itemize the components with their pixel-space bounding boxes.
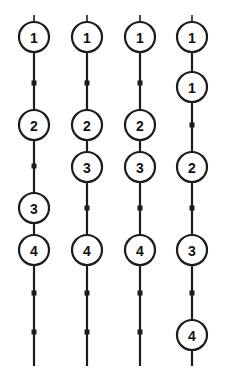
node-label: 3 bbox=[30, 201, 38, 217]
node-label: 1 bbox=[188, 30, 196, 46]
chain-marker-square bbox=[85, 206, 90, 211]
node-label: 3 bbox=[83, 160, 91, 176]
chain-marker-square bbox=[190, 291, 195, 296]
chain-column: 1234 bbox=[125, 15, 155, 366]
chain-column: 1234 bbox=[19, 15, 49, 366]
node-label: 1 bbox=[188, 80, 196, 96]
chain-marker-square bbox=[190, 123, 195, 128]
node-label: 2 bbox=[188, 160, 196, 176]
chain-marker-square bbox=[138, 206, 143, 211]
chain-node[interactable]: 3 bbox=[177, 235, 207, 265]
chain-node[interactable]: 1 bbox=[177, 72, 207, 102]
chain-node[interactable]: 1 bbox=[177, 22, 207, 52]
node-label: 2 bbox=[136, 118, 144, 134]
node-label: 1 bbox=[136, 30, 144, 46]
node-label: 1 bbox=[30, 30, 38, 46]
chain-marker-square bbox=[32, 81, 37, 86]
chain-node[interactable]: 1 bbox=[19, 22, 49, 52]
chain-node[interactable]: 2 bbox=[19, 110, 49, 140]
node-label: 4 bbox=[188, 328, 196, 344]
chain-node[interactable]: 2 bbox=[125, 110, 155, 140]
chain-node[interactable]: 3 bbox=[19, 193, 49, 223]
chain-node[interactable]: 4 bbox=[177, 320, 207, 350]
chain-node[interactable]: 4 bbox=[19, 235, 49, 265]
chain-node[interactable]: 4 bbox=[125, 235, 155, 265]
node-label: 3 bbox=[136, 160, 144, 176]
node-label: 4 bbox=[30, 243, 38, 259]
chain-column: 11234 bbox=[177, 15, 207, 366]
chain-marker-square bbox=[85, 291, 90, 296]
node-label: 2 bbox=[83, 118, 91, 134]
chain-marker-square bbox=[85, 81, 90, 86]
chain-column: 1234 bbox=[72, 15, 102, 366]
chain-node[interactable]: 2 bbox=[177, 152, 207, 182]
chain-node[interactable]: 3 bbox=[72, 152, 102, 182]
chain-marker-square bbox=[190, 206, 195, 211]
chain-marker-square bbox=[32, 330, 37, 335]
node-label: 4 bbox=[136, 243, 144, 259]
chain-marker-square bbox=[32, 164, 37, 169]
chain-node[interactable]: 4 bbox=[72, 235, 102, 265]
node-label: 3 bbox=[188, 243, 196, 259]
chain-diagram: 12341234123411234 bbox=[0, 0, 229, 374]
chain-marker-square bbox=[138, 330, 143, 335]
chain-marker-square bbox=[138, 81, 143, 86]
chain-marker-square bbox=[85, 330, 90, 335]
node-label: 1 bbox=[83, 30, 91, 46]
chain-node[interactable]: 2 bbox=[72, 110, 102, 140]
chain-node[interactable]: 3 bbox=[125, 152, 155, 182]
diagram-canvas: 12341234123411234 bbox=[0, 0, 229, 374]
node-label: 4 bbox=[83, 243, 91, 259]
chain-node[interactable]: 1 bbox=[125, 22, 155, 52]
chain-marker-square bbox=[32, 291, 37, 296]
node-label: 2 bbox=[30, 118, 38, 134]
chain-marker-square bbox=[138, 291, 143, 296]
chain-node[interactable]: 1 bbox=[72, 22, 102, 52]
